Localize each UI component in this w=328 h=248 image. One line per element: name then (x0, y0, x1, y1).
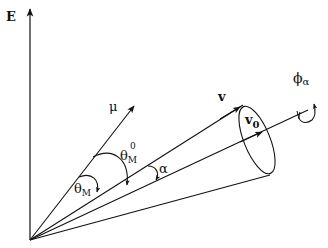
label-theta-m-base: θ (74, 181, 82, 196)
label-e: E (6, 9, 16, 24)
label-mu: μ (109, 99, 117, 114)
label-v0-sub: 0 (253, 119, 260, 130)
label-theta-m0-base: θ (120, 148, 128, 163)
label-theta-m: θM (74, 181, 91, 198)
label-phi-sub: α (303, 76, 310, 87)
label-v: v (217, 89, 226, 104)
cone-lower-edge (30, 175, 270, 240)
label-theta-m0-sub: M (128, 155, 137, 165)
mu-vector (30, 106, 134, 240)
label-theta-m0-sup: 0 (130, 141, 136, 151)
label-phi-base: ϕ (293, 70, 303, 86)
v-vector-arrow (220, 107, 240, 119)
label-alpha: α (159, 161, 168, 176)
cone-base-ellipse (231, 102, 282, 178)
label-theta-m-sub: M (82, 188, 91, 198)
v-vector-line (30, 105, 243, 240)
diagram-canvas: E μ v v0 θM 0 θM α ϕα (0, 0, 328, 248)
label-phi-alpha: ϕα (293, 70, 310, 87)
alpha-arc (148, 166, 158, 180)
